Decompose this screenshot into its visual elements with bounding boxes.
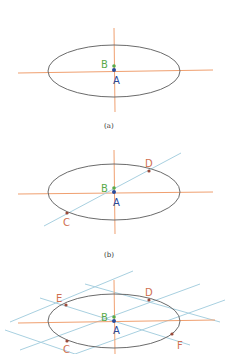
label-d: D <box>145 158 153 169</box>
label-c: C <box>63 217 70 228</box>
label-b: B <box>101 183 108 194</box>
tangent-line <box>75 300 225 354</box>
label-a: A <box>113 197 120 208</box>
label-a: A <box>113 75 120 86</box>
point-b <box>112 186 116 190</box>
point-d <box>147 298 150 301</box>
label-d: D <box>145 287 153 298</box>
panel-a: B A (a) <box>18 28 213 130</box>
point-a <box>112 68 116 72</box>
label-b: B <box>101 59 108 70</box>
point-a <box>112 319 116 323</box>
caption-b: (b) <box>104 251 114 259</box>
point-c <box>65 211 68 214</box>
point-d <box>147 169 150 172</box>
panel-b: B A D C (b) <box>18 150 213 259</box>
label-b: B <box>101 312 108 323</box>
label-a: A <box>113 325 120 336</box>
label-f: F <box>177 340 183 351</box>
caption-a: (a) <box>104 122 114 130</box>
label-e: E <box>56 293 62 304</box>
ellipse-construction-diagram: B A (a) B A D C (b) B A <box>0 0 229 354</box>
point-b <box>112 64 116 68</box>
point-b <box>112 315 116 319</box>
point-a <box>112 190 116 194</box>
point-e <box>64 303 67 306</box>
panel-c: B A D E C F <box>5 271 225 354</box>
point-f <box>170 332 173 335</box>
point-c <box>65 339 68 342</box>
label-c: C <box>63 344 70 354</box>
